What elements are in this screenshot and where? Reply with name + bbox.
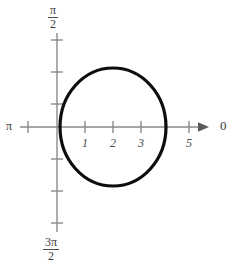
pi-over-2-numerator: π (48, 4, 58, 18)
polar-plot-figure: π π 2 3π 2 1 2 3 5 0 (0, 0, 227, 270)
axis-label-3pi-over-2: 3π 2 (43, 236, 59, 262)
plot-canvas (0, 0, 227, 270)
axis-label-pi-over-2: π 2 (48, 4, 58, 30)
tick-label-5: 5 (186, 137, 192, 149)
tick-label-2: 2 (110, 137, 116, 149)
tick-label-3: 3 (138, 137, 144, 149)
horizontal-axis-arrowhead (198, 122, 209, 132)
pi-over-2-denominator: 2 (48, 18, 58, 31)
three-pi-over-2-numerator: 3π (43, 236, 59, 250)
tick-label-1: 1 (82, 137, 88, 149)
three-pi-over-2-denominator: 2 (43, 250, 59, 263)
axis-label-pi: π (6, 120, 12, 132)
axis-label-zero: 0 (220, 119, 227, 132)
